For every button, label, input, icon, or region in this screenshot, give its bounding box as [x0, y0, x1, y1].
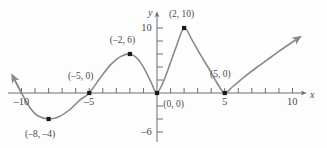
data-point — [182, 26, 186, 30]
y-axis-label: y — [148, 8, 152, 18]
axis-layer — [8, 14, 304, 142]
curve-path — [13, 28, 298, 119]
data-point — [223, 91, 227, 95]
x-tick-label: 10 — [287, 97, 298, 108]
point-label: (–2, 6) — [110, 36, 135, 46]
data-point — [47, 117, 51, 121]
point-label: (0, 0) — [163, 100, 184, 110]
data-point — [155, 91, 159, 95]
point-label: (–8, –4) — [25, 130, 55, 140]
point-label: (5, 0) — [210, 70, 231, 80]
x-tick-label: 5 — [222, 97, 227, 108]
data-point — [128, 52, 132, 56]
curve-start-arrow — [13, 77, 21, 93]
point-label: (2, 10) — [169, 10, 194, 20]
graph-canvas — [0, 0, 327, 148]
graph-figure: –10–551010–6(–8, –4)(–5, 0)(–2, 6)(0, 0)… — [0, 0, 327, 148]
y-tick-label: –6 — [141, 127, 152, 138]
x-tick-label: –10 — [13, 97, 29, 108]
y-axis-ticks — [157, 28, 163, 132]
y-tick-label: 10 — [141, 23, 152, 34]
x-tick-label: –5 — [84, 97, 95, 108]
curve-layer — [13, 28, 298, 119]
point-label: (–5, 0) — [68, 72, 93, 82]
data-point — [87, 91, 91, 95]
x-axis-label: x — [310, 90, 314, 100]
